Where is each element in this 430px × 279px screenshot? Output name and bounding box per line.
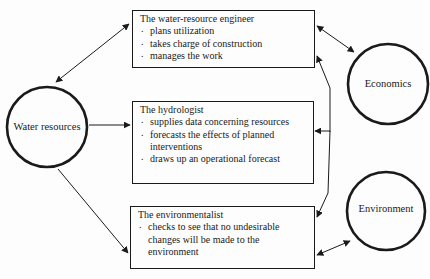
arrow-engineer-economics [317, 26, 354, 52]
hydrologist-duties: supplies data concerning resources forec… [140, 116, 290, 165]
environment-label: Environment [346, 203, 426, 214]
duty-item: plans utilization [140, 25, 314, 37]
hydrologist-title: The hydrologist [140, 104, 313, 116]
arrow-engineer-water [56, 24, 129, 82]
environmentalist-box: The environmentalist checks to see that … [130, 206, 315, 269]
engineer-duties: plans utilization takes charge of constr… [140, 25, 314, 62]
hydrologist-box: The hydrologist supplies data concerning… [132, 101, 314, 184]
connector-to-environmentalist [317, 131, 330, 217]
duty-item: forecasts the effects of planned interve… [140, 129, 290, 154]
duty-item: checks to see that no undesirable change… [138, 221, 298, 258]
engineer-box: The water-resource engineer plans utiliz… [132, 10, 315, 68]
duty-item: manages the work [140, 50, 314, 62]
environmentalist-duties: checks to see that no undesirable change… [138, 221, 298, 258]
engineer-title: The water-resource engineer [140, 13, 314, 25]
connector-to-engineer [317, 56, 330, 132]
arrow-environmentalist-environment [317, 241, 350, 255]
arrow-water-environmentalist [58, 169, 128, 253]
water-resources-label: Water resources [7, 121, 87, 132]
duty-item: supplies data concerning resources [140, 116, 290, 128]
economics-label: Economics [348, 78, 428, 89]
duty-item: takes charge of construction [140, 38, 314, 50]
duty-item: draws up an operational forecast [140, 153, 290, 165]
diagram-canvas: Water resources Economics Environment Th… [0, 0, 430, 279]
environmentalist-title: The environmentalist [138, 209, 314, 221]
